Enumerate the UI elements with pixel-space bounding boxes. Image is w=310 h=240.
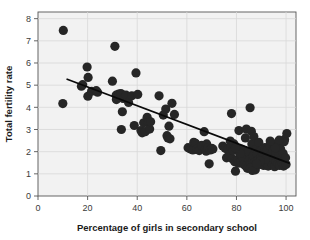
scatter-point [266,136,275,145]
y-axis-title: Total fertility rate [3,66,14,142]
x-tick-label: 40 [132,203,142,213]
scatter-point [58,99,67,108]
y-tick-label: 6 [26,58,31,68]
y-tick-label: 0 [26,191,31,201]
scatter-point [282,129,291,138]
scatter-point [118,107,127,116]
x-tick-label: 0 [35,203,40,213]
scatter-point [165,134,174,143]
scatter-point [133,90,142,99]
y-tick-label: 8 [26,14,31,24]
scatter-point [117,125,126,134]
scatter-point [246,103,255,112]
y-tick-label: 2 [26,147,31,157]
scatter-point [146,117,155,126]
y-tick-label: 7 [26,36,31,46]
scatter-point [131,68,140,77]
scatter-plot-figure: 012345678 020406080100 Percentage of gir… [0,0,310,240]
scatter-point [164,122,173,131]
x-tick-label: 80 [231,203,241,213]
scatter-point [241,133,250,142]
x-axis-title: Percentage of girls in secondary school [77,222,257,233]
scatter-point [252,159,261,168]
scatter-point [227,109,236,118]
scatter-point [108,77,117,86]
y-tick-label: 1 [26,169,31,179]
x-tick-label: 20 [83,203,93,213]
y-tick-label: 5 [26,80,31,90]
scatter-point [110,42,119,51]
y-tick-label: 3 [26,125,31,135]
scatter-point [154,91,163,100]
chart-canvas: 012345678 020406080100 Percentage of gir… [0,0,310,240]
y-axis-ticks: 012345678 [26,14,38,201]
scatter-point [59,26,68,35]
scatter-point [156,146,165,155]
scatter-point [231,167,240,176]
y-tick-label: 4 [26,103,31,113]
x-axis-ticks: 020406080100 [35,196,293,213]
scatter-point [205,159,214,168]
scatter-point [167,99,176,108]
scatter-point [83,62,92,71]
x-tick-label: 60 [182,203,192,213]
scatter-point [170,110,179,119]
x-tick-label: 100 [279,203,294,213]
scatter-point [84,73,93,82]
scatter-point [208,144,217,153]
